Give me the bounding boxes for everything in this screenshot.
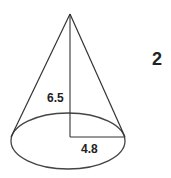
height-label: 6.5 <box>47 91 64 105</box>
cone-right-slant <box>70 14 125 137</box>
problem-number: 2 <box>152 49 162 69</box>
radius-label: 4.8 <box>81 142 98 156</box>
cone-left-slant <box>11 14 70 137</box>
cone-base-ellipse <box>11 113 125 169</box>
cone-figure: 6.5 4.8 2 <box>0 0 171 178</box>
cone-diagram: 6.5 4.8 2 <box>0 0 171 178</box>
